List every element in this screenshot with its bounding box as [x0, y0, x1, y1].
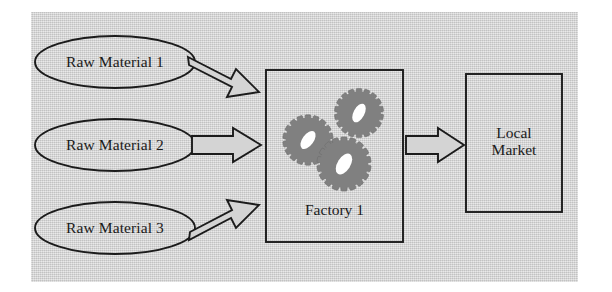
node-raw-material-1[interactable] — [35, 36, 195, 88]
hollow-block-arrow-4 — [406, 128, 464, 162]
ellipse-outline-raw-material-1 — [35, 36, 195, 88]
hollow-block-arrow-2 — [192, 128, 261, 162]
arrow-raw-material-1-to-factory[interactable] — [188, 57, 259, 97]
diagram-root: Raw Material 1 Raw Material 2 Raw Materi… — [0, 0, 612, 292]
node-raw-material-3[interactable] — [35, 202, 195, 254]
node-raw-material-2[interactable] — [35, 119, 195, 171]
node-local-market[interactable] — [466, 74, 562, 212]
arrow-raw-material-3-to-factory[interactable] — [189, 200, 259, 240]
gears-icon — [283, 88, 384, 191]
hollow-block-arrow-3 — [189, 200, 259, 240]
rectangle-outline-local-market — [466, 74, 562, 212]
hollow-block-arrow-1 — [188, 57, 259, 97]
ellipse-outline-raw-material-3 — [35, 202, 195, 254]
diagram-vector-layer — [0, 0, 612, 292]
arrow-raw-material-2-to-factory[interactable] — [192, 128, 261, 162]
gear-icon-top-right — [334, 88, 383, 137]
arrow-factory-to-local-market[interactable] — [406, 128, 464, 162]
ellipse-outline-raw-material-2 — [35, 119, 195, 171]
gear-icon-bottom-center — [317, 137, 371, 191]
